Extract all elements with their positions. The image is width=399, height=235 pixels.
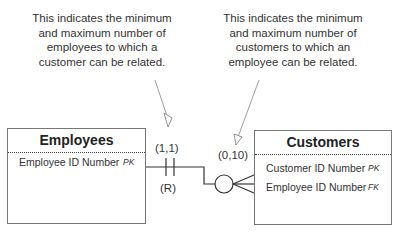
customer-side-cardinality: (0,10) <box>218 149 248 161</box>
key-badge: PK <box>368 159 379 178</box>
attribute-name: Employee ID Number <box>266 178 366 197</box>
attribute-row: Employee ID Number FK <box>255 178 391 197</box>
divider <box>255 154 391 155</box>
attribute-row: Customer ID Number PK <box>255 159 391 178</box>
arrowhead-right-icon <box>234 134 242 145</box>
attribute-row: Employee ID Number PK <box>8 153 145 172</box>
employee-side-marker: (R) <box>160 182 176 194</box>
entity-title: Employees <box>8 129 145 152</box>
key-badge: PK <box>123 153 134 172</box>
pointer-line-right <box>238 80 259 137</box>
zero-circle-icon <box>215 175 233 193</box>
entity-employees: Employees Employee ID Number PK <box>7 128 146 224</box>
entity-customers: Customers Customer ID Number PK Employee… <box>254 130 392 225</box>
entity-title: Customers <box>255 131 391 154</box>
attribute-name: Employee ID Number <box>19 153 119 172</box>
key-badge: FK <box>368 178 379 197</box>
crows-foot-icon <box>233 175 254 184</box>
arrowhead-left-icon <box>164 113 172 127</box>
attribute-name: Customer ID Number <box>266 159 365 178</box>
employee-side-cardinality: (1,1) <box>155 142 179 154</box>
pointer-line-left <box>155 80 168 119</box>
